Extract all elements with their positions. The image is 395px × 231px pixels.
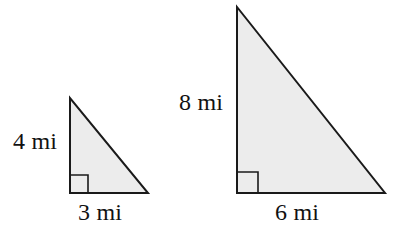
- large-triangle-base-label: 6 mi: [275, 200, 319, 224]
- small-triangle-base-label: 3 mi: [78, 200, 122, 224]
- small-triangle-shape: [70, 98, 148, 193]
- large-triangle-shape: [237, 7, 385, 193]
- large-triangle-height-label: 8 mi: [179, 90, 223, 114]
- triangles-canvas: [0, 0, 395, 231]
- geometry-figure: 4 mi 3 mi 8 mi 6 mi: [0, 0, 395, 231]
- small-triangle-height-label: 4 mi: [13, 129, 57, 153]
